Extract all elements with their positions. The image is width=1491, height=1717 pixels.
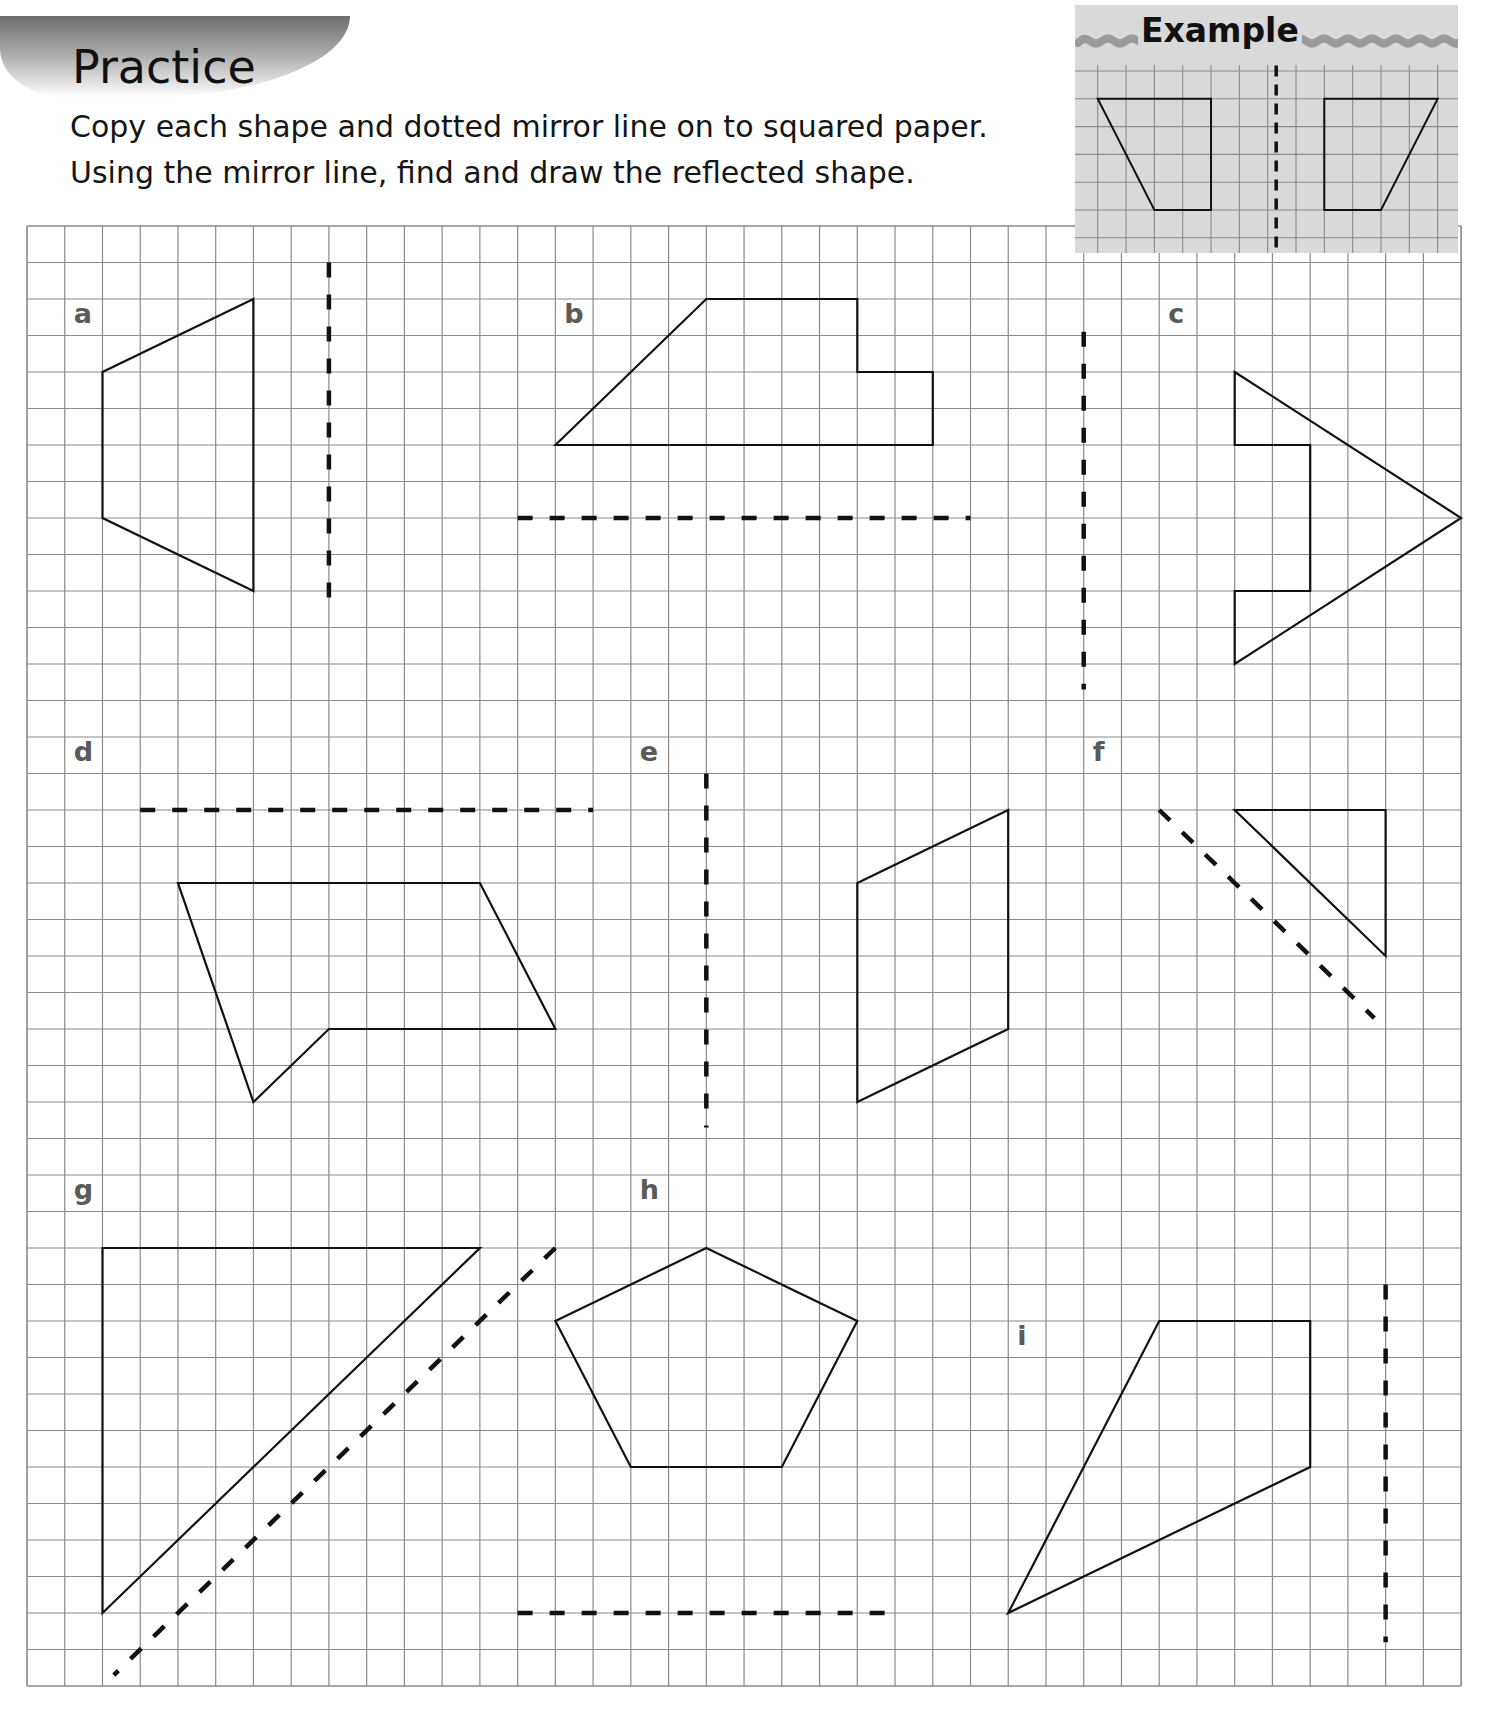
- example-title: Example: [1138, 11, 1302, 50]
- exercise-label-c: c: [1168, 298, 1184, 329]
- mirror-line-g: [114, 1248, 556, 1675]
- exercise-label-e: e: [640, 736, 658, 767]
- exercise-label-h: h: [640, 1174, 659, 1205]
- exercise-label-g: g: [74, 1174, 93, 1205]
- squared-paper: [0, 0, 1491, 1717]
- exercise-label-d: d: [74, 736, 93, 767]
- example-box: Example: [1075, 5, 1458, 253]
- example-grid-lines: [1075, 65, 1458, 253]
- exercise-label-b: b: [564, 298, 583, 329]
- exercise-label-i: i: [1017, 1320, 1026, 1351]
- exercise-label-a: a: [74, 298, 92, 329]
- exercise-label-f: f: [1093, 736, 1105, 767]
